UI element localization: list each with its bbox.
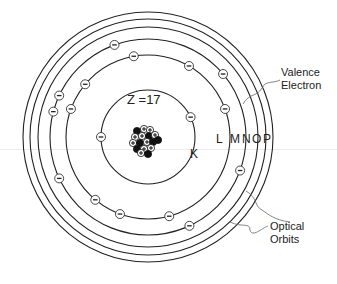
electron-shell0-0: [186, 113, 195, 122]
neutron: [154, 136, 161, 143]
neutron: [144, 150, 151, 157]
shell-label-l: L: [216, 133, 223, 146]
shell-label-k: K: [190, 148, 198, 161]
valence-label-line2: Electron: [281, 79, 321, 92]
electron-shell2-1: [219, 70, 228, 79]
electron-shell2-3: [55, 91, 64, 100]
shell-label-o: O: [252, 133, 261, 146]
electron-shell1-2: [221, 104, 230, 113]
optical-label-line1: Optical: [270, 220, 304, 233]
electron-shell1-3: [66, 104, 75, 113]
shell-label-m: M: [230, 133, 240, 146]
electron-shell1-5: [165, 212, 174, 221]
optical-pointer-1: [246, 191, 290, 222]
atom-diagram: Z =17 K L M N O P Valence Electron Optic…: [0, 0, 337, 284]
electron-shell2-5: [185, 221, 194, 230]
shell-label-p: P: [263, 133, 271, 146]
electron-shell1-6: [115, 210, 124, 219]
electron-shell1-0: [129, 52, 138, 61]
electron-shell1-1: [185, 61, 194, 70]
shell-label-n: N: [242, 133, 251, 146]
valence-label-line1: Valence: [281, 66, 320, 79]
electron-shell1-4: [91, 195, 100, 204]
optical-label-line2: Orbits: [270, 233, 299, 246]
electron-shell2-2: [236, 166, 245, 175]
electron-shell2-6: [49, 107, 58, 116]
electron-shell2-4: [55, 174, 64, 183]
nucleus: [129, 125, 161, 157]
nucleus-label: Z =17: [127, 93, 161, 106]
electron-shell2-0: [110, 40, 119, 49]
electron-shell0-1: [97, 133, 106, 142]
optical-pointer-2: [230, 222, 268, 233]
electron-shell1-7: [81, 80, 90, 89]
